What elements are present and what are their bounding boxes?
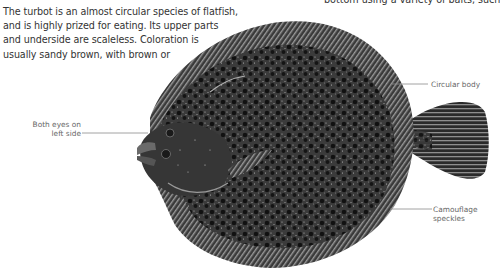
label-text: speckles (433, 214, 478, 223)
label-text: Camouflage (433, 205, 478, 214)
label-circular-body: Circular body (431, 80, 480, 89)
label-text: Both eyes on (31, 120, 81, 129)
eye-upper (166, 129, 174, 137)
label-text: Circular body (431, 80, 480, 89)
label-camouflage: Camouflage speckles (433, 205, 478, 223)
label-eyes: Both eyes on left side (41, 120, 81, 138)
eye-lower (162, 150, 171, 159)
label-text: left side (41, 129, 81, 138)
